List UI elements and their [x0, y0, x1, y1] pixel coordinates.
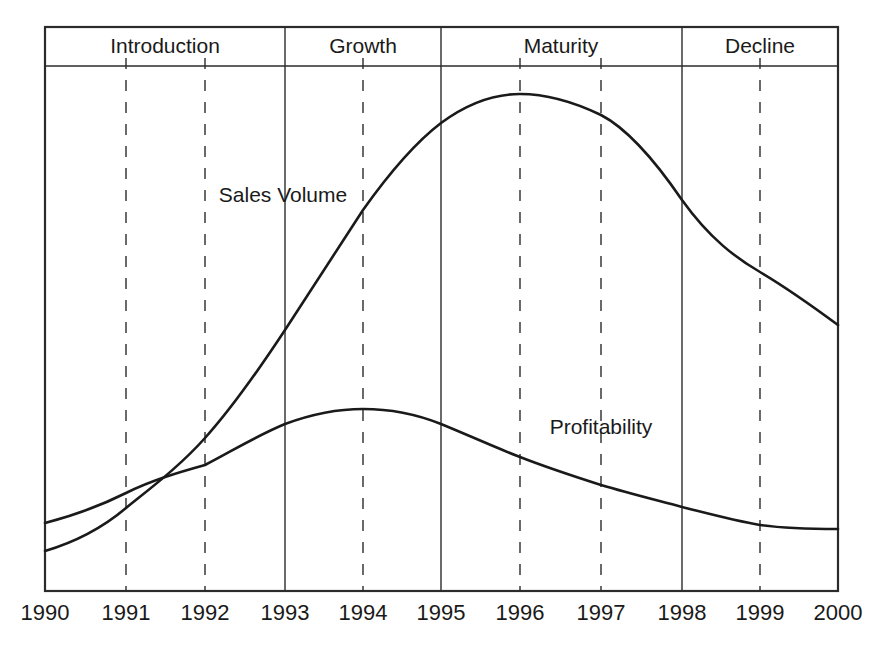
x-tick-1998: 1998 [658, 600, 707, 625]
x-tick-1997: 1997 [577, 600, 626, 625]
x-tick-1996: 1996 [496, 600, 545, 625]
series-annotations: Sales Volume Profitability [219, 183, 653, 438]
dashed-gridlines [126, 58, 760, 591]
x-tick-1994: 1994 [339, 600, 388, 625]
x-tick-1990: 1990 [21, 600, 70, 625]
chart-canvas: Introduction Growth Maturity Decline Sal… [0, 0, 896, 656]
stage-divider-lines [285, 27, 682, 591]
x-axis-tick-labels: 1990 1991 1992 1993 1994 1995 1996 1997 … [21, 600, 863, 625]
stage-label-decline: Decline [725, 34, 795, 57]
x-tick-2000: 2000 [814, 600, 863, 625]
series-label-profitability: Profitability [550, 415, 653, 438]
x-tick-1991: 1991 [102, 600, 151, 625]
x-tick-1992: 1992 [181, 600, 230, 625]
stage-label-introduction: Introduction [110, 34, 220, 57]
x-tick-1995: 1995 [417, 600, 466, 625]
stage-labels: Introduction Growth Maturity Decline [110, 34, 795, 57]
product-life-cycle-chart: Introduction Growth Maturity Decline Sal… [0, 0, 896, 656]
x-tick-1999: 1999 [736, 600, 785, 625]
stage-label-maturity: Maturity [524, 34, 599, 57]
stage-label-growth: Growth [329, 34, 397, 57]
series-label-sales-volume: Sales Volume [219, 183, 347, 206]
x-tick-1993: 1993 [261, 600, 310, 625]
